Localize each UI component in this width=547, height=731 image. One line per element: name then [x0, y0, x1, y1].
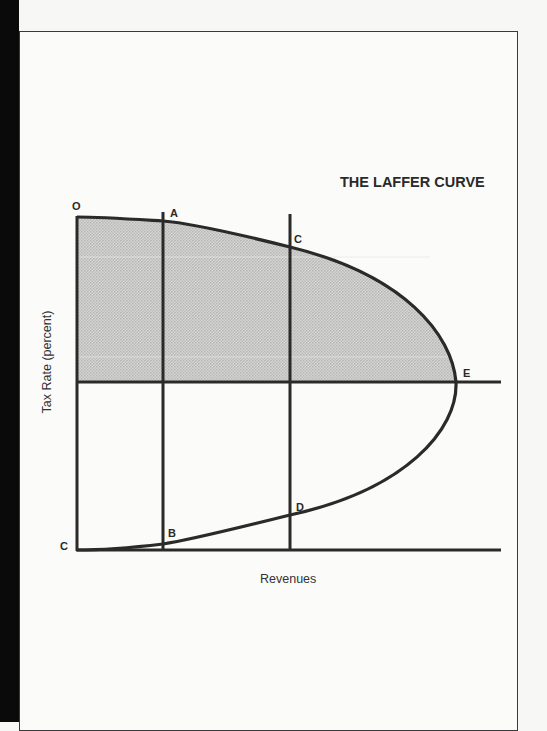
point-label-b: B	[168, 527, 176, 539]
point-label-o: O	[72, 200, 81, 212]
point-label-e: E	[463, 367, 470, 379]
chart-title: THE LAFFER CURVE	[340, 174, 485, 190]
y-axis-label: Tax Rate (percent)	[40, 311, 54, 414]
point-label-c-top: C	[294, 233, 302, 245]
point-label-d: D	[296, 501, 304, 513]
point-label-a: A	[170, 207, 178, 219]
point-label-c-bottom: C	[60, 540, 68, 552]
x-axis-label: Revenues	[260, 572, 316, 586]
